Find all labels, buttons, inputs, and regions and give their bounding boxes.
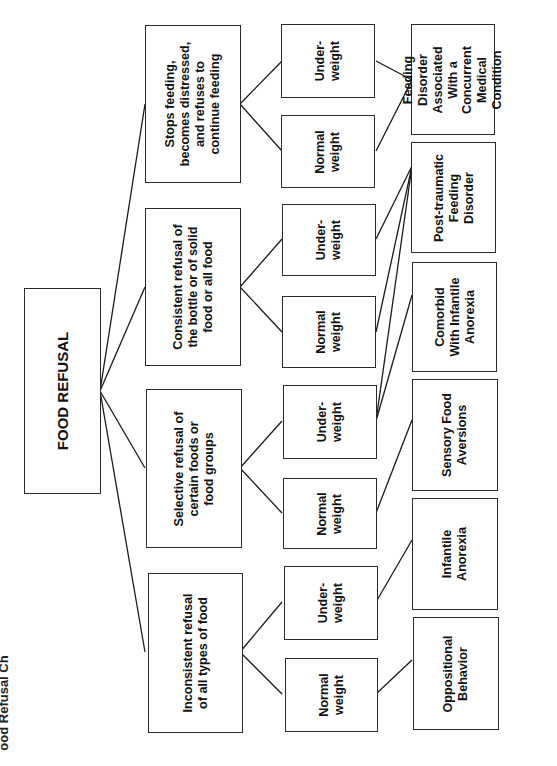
- outcome-box-sensory-food-aversions: Sensory Food Aversions: [412, 379, 498, 491]
- outcome-label: Comorbid With Infantile Anorexia: [432, 278, 477, 357]
- weight-box-normal-2: Normal weight: [282, 296, 376, 368]
- outcome-box-oppositional-behavior: Oppositional Behavior: [413, 617, 499, 730]
- category-box-inconsistent-refusal: Inconsistent refusal of all types of foo…: [148, 573, 243, 733]
- outcome-box-concurrent-medical-condition: Feeding Disorder Associated With a Concu…: [411, 24, 495, 135]
- weight-box-underweight-3: Under- weight: [283, 385, 377, 459]
- category-label: Selective refusal of certain foods or fo…: [172, 411, 217, 526]
- root-label: FOOD REFUSAL: [54, 332, 72, 450]
- root-box-food-refusal: FOOD REFUSAL: [24, 288, 101, 494]
- outcome-label: Infantile Anorexia: [440, 527, 470, 581]
- weight-label: Normal weight: [315, 492, 345, 535]
- outcome-box-infantile-anorexia: Infantile Anorexia: [412, 498, 498, 610]
- outcome-box-post-traumatic: Post-traumatic Feeding Disorder: [411, 142, 496, 253]
- weight-box-normal-4: Normal weight: [285, 658, 378, 732]
- weight-box-normal-3: Normal weight: [283, 478, 377, 549]
- connector-root-to-stops-feeding: [100, 104, 145, 391]
- category-box-selective-refusal: Selective refusal of certain foods or fo…: [146, 389, 242, 548]
- weight-label: Normal weight: [313, 130, 343, 173]
- weight-box-underweight-1: Under- weight: [281, 24, 375, 98]
- weight-box-normal-1: Normal weight: [281, 115, 375, 188]
- weight-label: Normal weight: [314, 310, 344, 353]
- weight-box-underweight-2: Under- weight: [282, 204, 376, 276]
- category-box-stops-feeding: Stops feeding, becomes distressed, and r…: [145, 25, 241, 183]
- outcome-label: Post-traumatic Feeding Disorder: [431, 153, 476, 241]
- weight-label: Under- weight: [313, 41, 343, 82]
- connector-root-to-consistent: [100, 287, 145, 391]
- edge-partial-caption: ood Refusal Ch: [0, 640, 12, 766]
- weight-label: Under- weight: [314, 220, 344, 261]
- outcome-label: Sensory Food Aversions: [440, 393, 470, 477]
- category-label: Stops feeding, becomes distressed, and r…: [163, 42, 222, 167]
- weight-label: Normal weight: [317, 673, 347, 716]
- food-refusal-flowchart: ood Refusal Ch FOOD REFUSAL Stops feedin…: [0, 0, 557, 766]
- outcome-box-comorbid-infantile-anorexia: Comorbid With Infantile Anorexia: [412, 262, 497, 372]
- outcome-label: Oppositional Behavior: [441, 635, 471, 712]
- outcome-label: Feeding Disorder Associated With a Concu…: [401, 46, 505, 114]
- category-label: Consistent refusal of the bottle or of s…: [171, 224, 216, 349]
- weight-label: Under- weight: [316, 583, 346, 624]
- weight-box-underweight-4: Under- weight: [284, 566, 378, 640]
- category-label: Inconsistent refusal of all types of foo…: [181, 594, 211, 713]
- category-box-consistent-refusal: Consistent refusal of the bottle or of s…: [145, 208, 241, 366]
- weight-label: Under- weight: [315, 402, 345, 443]
